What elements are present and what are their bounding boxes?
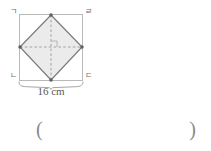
vertex-label-top-left: ㄱ [10, 8, 17, 16]
vertex-label-top-right: ㄹ [85, 8, 92, 16]
open-paren: ( [36, 117, 43, 141]
vertex-label-bottom-left: ㄴ [10, 72, 17, 80]
vertex-label-bottom-right: ㄷ [85, 72, 92, 80]
dimension-label: 16 cm [19, 85, 83, 97]
vertex-dot [49, 78, 52, 81]
close-paren: ) [189, 117, 196, 141]
vertex-dot [80, 45, 83, 48]
answer-input[interactable] [50, 119, 182, 141]
vertex-dot [49, 13, 52, 16]
vertex-dot [18, 45, 21, 48]
worksheet-page: ㄱ ㄹ ㄴ ㄷ 16 cm ( ) [0, 0, 211, 151]
geometry-figure: ㄱ ㄹ ㄴ ㄷ 16 cm [0, 0, 105, 105]
answer-blank: ( ) [36, 117, 196, 143]
